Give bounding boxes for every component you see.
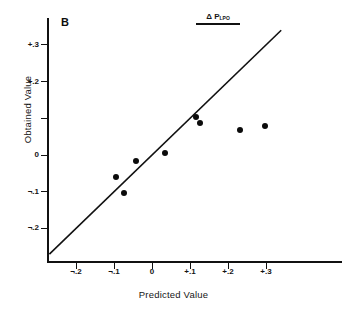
legend: Δ PLPO xyxy=(196,13,240,25)
x-tick-label: 0 xyxy=(132,268,172,276)
y-tick-mark xyxy=(41,191,48,192)
y-tick-label: ¬.1 xyxy=(9,188,39,196)
y-tick-label: ¬.2 xyxy=(9,224,39,232)
data-point xyxy=(113,174,119,180)
y-tick-mark xyxy=(41,44,48,45)
data-point xyxy=(162,150,168,156)
x-tick-label: +.3 xyxy=(246,268,286,276)
y-tick-mark xyxy=(41,155,48,156)
data-point xyxy=(237,127,243,133)
x-tick-label: ¬.1 xyxy=(94,268,134,276)
data-point xyxy=(262,123,268,129)
x-axis-title: Predicted Value xyxy=(0,289,347,300)
y-tick-mark xyxy=(41,228,48,229)
scatter-plot-figure: B Δ PLPO +.3+.20¬.1¬.2 ¬.2¬.10+.1+.2+.3 … xyxy=(0,0,347,317)
legend-label: Δ PLPO xyxy=(196,13,240,22)
y-axis-line xyxy=(47,18,49,263)
y-tick-mark xyxy=(41,81,48,82)
data-point xyxy=(197,120,203,126)
panel-label: B xyxy=(61,17,69,28)
x-tick-label: +.2 xyxy=(208,268,248,276)
x-tick-label: ¬.2 xyxy=(56,268,96,276)
data-point xyxy=(193,114,199,120)
y-axis-title: Obtained Value xyxy=(22,35,33,185)
legend-underline xyxy=(196,23,240,25)
x-tick-label: +.1 xyxy=(170,268,210,276)
y-tick-mark xyxy=(41,118,48,119)
x-axis-line xyxy=(47,261,342,263)
data-point xyxy=(121,190,127,196)
data-point xyxy=(133,158,139,164)
